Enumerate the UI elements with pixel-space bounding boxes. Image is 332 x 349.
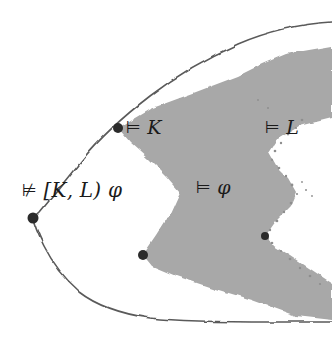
label-models-phi: ⊨ φ bbox=[196, 178, 231, 197]
label-not-models-kl-phi: ⊭ [K, L) φ bbox=[22, 180, 122, 200]
diagram-canvas: ⊨ K ⊨ L ⊨ φ ⊭ [K, L) φ bbox=[0, 0, 332, 349]
point-lower-left-gray bbox=[138, 250, 148, 260]
marker-points-layer bbox=[0, 0, 332, 349]
turnstile-icon: ⊨ bbox=[196, 177, 211, 197]
negated-turnstile-icon: ⊭ bbox=[22, 180, 37, 200]
point-not-models-kl bbox=[28, 213, 39, 224]
point-models-k bbox=[113, 123, 123, 133]
label-models-k-formula: K bbox=[147, 116, 161, 138]
label-models-k: ⊨ K bbox=[126, 118, 162, 137]
point-right-gray bbox=[261, 232, 269, 240]
label-models-l-formula: L bbox=[286, 116, 299, 138]
label-not-models-formula: [K, L) φ bbox=[44, 178, 123, 202]
turnstile-icon: ⊨ bbox=[126, 117, 141, 137]
label-models-l: ⊨ L bbox=[265, 118, 299, 137]
label-models-phi-formula: φ bbox=[217, 176, 231, 198]
turnstile-icon: ⊨ bbox=[265, 117, 280, 137]
